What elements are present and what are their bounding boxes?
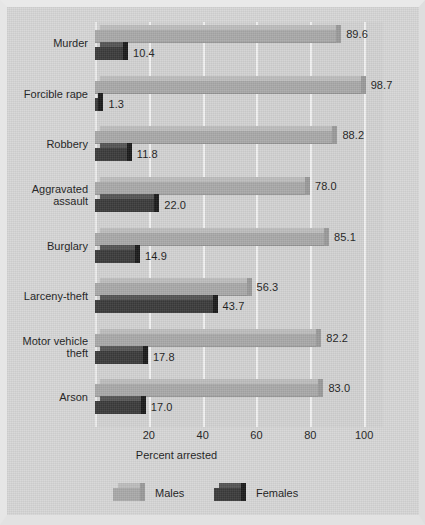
bar-end-cap: [135, 245, 140, 263]
category-label: Burglary: [0, 240, 92, 253]
value-label-males: 82.2: [326, 332, 348, 344]
x-tick-label: 100: [355, 429, 373, 441]
x-axis-title-text: Percent arrested: [136, 449, 217, 461]
legend-label: Males: [155, 487, 184, 499]
bar-group: 56.343.7: [95, 278, 383, 325]
bar-front-face: [95, 300, 213, 313]
plot-area: 89.610.498.71.388.211.878.022.085.114.95…: [95, 22, 383, 427]
bar-end-cap: [98, 93, 103, 111]
legend-item: Females: [214, 483, 246, 505]
value-label-females: 17.0: [151, 401, 173, 413]
bar-end-cap: [336, 25, 341, 43]
bar-group: 98.71.3: [95, 76, 383, 123]
x-tick-label: 60: [250, 429, 262, 441]
females-swatch: [214, 483, 246, 501]
value-label-males: 98.7: [371, 79, 393, 91]
value-label-females: 17.8: [153, 351, 175, 363]
bar-front-face: [95, 47, 123, 60]
value-label-males: 56.3: [257, 281, 279, 293]
bar-end-cap: [324, 228, 329, 246]
bar-group: 85.114.9: [95, 228, 383, 275]
value-label-males: 78.0: [315, 180, 337, 192]
bar-group: 78.022.0: [95, 177, 383, 224]
bar-front-face: [95, 199, 154, 212]
value-label-males: 83.0: [328, 382, 350, 394]
x-axis-title: Percent arrested: [0, 449, 425, 461]
value-label-males: 85.1: [334, 231, 356, 243]
bar-end-cap: [305, 177, 310, 195]
bar-group: 83.017.0: [95, 379, 383, 426]
x-axis-tick-labels: 20406080100: [0, 429, 425, 447]
bar-end-cap: [127, 143, 132, 161]
value-label-males: 89.6: [346, 28, 368, 40]
value-label-males: 88.2: [342, 129, 364, 141]
bar-front-face: [95, 30, 336, 43]
value-label-females: 11.8: [137, 148, 158, 160]
value-label-females: 22.0: [164, 199, 186, 211]
legend-swatch-cap: [140, 483, 145, 501]
bar-front-face: [95, 148, 127, 161]
bar-front-face: [95, 351, 143, 364]
bar-front-face: [95, 81, 361, 94]
bar-end-cap: [154, 194, 159, 212]
category-label: Arson: [0, 391, 92, 404]
bar-chart: 89.610.498.71.388.211.878.022.085.114.95…: [0, 0, 425, 525]
value-label-females: 43.7: [223, 300, 245, 312]
bar-end-cap: [318, 379, 323, 397]
value-label-females: 10.4: [133, 47, 155, 59]
bar-group: 89.610.4: [95, 25, 383, 72]
legend-item: Males: [113, 483, 145, 505]
bar-end-cap: [213, 295, 218, 313]
bar-end-cap: [361, 76, 366, 94]
bar-end-cap: [316, 329, 321, 347]
category-axis-labels: MurderForcible rapeRobberyAggravated ass…: [0, 22, 92, 427]
bar-group: 88.211.8: [95, 126, 383, 173]
category-label: Larceny-theft: [0, 290, 92, 303]
bar-group: 82.217.8: [95, 329, 383, 376]
legend-swatch-front: [113, 488, 140, 501]
x-tick-label: 80: [304, 429, 316, 441]
category-label: Forcible rape: [0, 88, 92, 101]
bar-end-cap: [247, 278, 252, 296]
males-swatch: [113, 483, 145, 501]
bar-end-cap: [143, 346, 148, 364]
category-label: Murder: [0, 37, 92, 50]
value-label-females: 14.9: [145, 250, 167, 262]
legend-label: Females: [256, 487, 298, 499]
legend-swatch-front: [214, 488, 241, 501]
bar-end-cap: [141, 396, 146, 414]
bar-front-face: [95, 401, 141, 414]
category-label: Motor vehicle theft: [0, 335, 92, 360]
value-label-females: 1.3: [108, 98, 124, 110]
category-label: Robbery: [0, 138, 92, 151]
bar-end-cap: [332, 126, 337, 144]
bar-front-face: [95, 250, 135, 263]
x-tick-label: 20: [143, 429, 155, 441]
category-label: Aggravated assault: [0, 183, 92, 208]
x-tick-label: 40: [197, 429, 209, 441]
chart-legend: MalesFemales: [0, 483, 425, 509]
bar-end-cap: [123, 42, 128, 60]
legend-swatch-cap: [241, 483, 246, 501]
